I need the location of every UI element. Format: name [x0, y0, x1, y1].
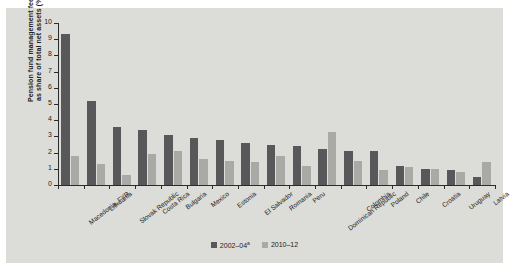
bar[interactable]: [138, 130, 146, 185]
bar[interactable]: [97, 164, 105, 185]
bar[interactable]: [447, 170, 455, 185]
bar[interactable]: [344, 151, 352, 185]
bar[interactable]: [148, 154, 156, 185]
bar-group: [58, 23, 84, 185]
x-axis-tick: [392, 185, 393, 189]
chart-panel: Pension fund management fees as share of…: [6, 8, 503, 263]
x-axis-tick: [187, 185, 188, 189]
bar-group: [109, 23, 135, 185]
bar[interactable]: [328, 132, 336, 185]
x-axis-tick: [418, 185, 419, 189]
x-axis-tick: [289, 185, 290, 189]
bar-group: [315, 23, 341, 185]
legend-footnote-marker: a: [247, 240, 250, 246]
y-axis-title-line-2: as share of total net assets (%): [35, 0, 43, 101]
bar[interactable]: [276, 156, 284, 185]
bar-group: [289, 23, 315, 185]
bar-group: [444, 23, 470, 185]
y-axis-tick-label: 8: [48, 50, 52, 57]
bar-group: [264, 23, 290, 185]
bar[interactable]: [396, 166, 404, 185]
y-axis-tick-label: 1: [48, 164, 52, 171]
bar[interactable]: [405, 167, 413, 185]
legend-swatch-2002-04: [211, 242, 217, 248]
x-axis-tick: [135, 185, 136, 189]
plot-area: 012345678910 Macedonia, FYRLithuaniaSlov…: [58, 23, 495, 185]
y-axis-tick-label: 10: [44, 18, 52, 25]
x-axis-category-label: Chile: [414, 190, 430, 205]
x-axis-category-label: Estonia: [235, 190, 257, 209]
bar-group: [212, 23, 238, 185]
x-axis-tick: [84, 185, 85, 189]
y-axis-tick-label: 5: [48, 99, 52, 106]
x-axis-tick: [315, 185, 316, 189]
legend-item[interactable]: 2002–04a: [211, 240, 250, 249]
legend-item[interactable]: 2010–12: [262, 241, 298, 248]
bar[interactable]: [473, 177, 481, 185]
bar[interactable]: [61, 34, 69, 185]
x-axis-tick: [366, 185, 367, 189]
bar[interactable]: [199, 159, 207, 185]
bar[interactable]: [190, 138, 198, 185]
legend-swatch-2010-12: [262, 242, 268, 248]
bar[interactable]: [174, 151, 182, 185]
bar-group: [187, 23, 213, 185]
bar[interactable]: [251, 162, 259, 185]
x-axis-tick: [161, 185, 162, 189]
x-axis-tick: [444, 185, 445, 189]
bar[interactable]: [354, 161, 362, 185]
bar[interactable]: [216, 140, 224, 185]
bar[interactable]: [267, 145, 275, 186]
x-axis-category-label: Croatia: [441, 190, 462, 209]
x-axis-tick: [58, 185, 59, 189]
bar[interactable]: [431, 169, 439, 185]
bar[interactable]: [122, 175, 130, 185]
bar-group: [392, 23, 418, 185]
y-axis-tick-label: 2: [48, 148, 52, 155]
bar-group: [418, 23, 444, 185]
x-axis-category-label: Latvia: [492, 190, 510, 206]
bar[interactable]: [87, 101, 95, 185]
y-axis-tick-label: 9: [48, 34, 52, 41]
y-axis-tick-label: 3: [48, 131, 52, 138]
x-axis-category-label: Uruguay: [467, 190, 491, 211]
x-axis-tick: [469, 185, 470, 189]
x-axis-category-label: Peru: [311, 190, 326, 204]
bar-group: [135, 23, 161, 185]
bar[interactable]: [241, 143, 249, 185]
bar[interactable]: [482, 162, 490, 185]
x-axis-tick: [495, 185, 496, 189]
bar[interactable]: [113, 127, 121, 185]
bar[interactable]: [302, 166, 310, 185]
x-axis-tick: [212, 185, 213, 189]
chart-legend: 2002–04a2010–12: [6, 240, 503, 249]
x-axis-tick: [238, 185, 239, 189]
bar[interactable]: [164, 135, 172, 185]
bar-group: [161, 23, 187, 185]
x-axis-tick: [109, 185, 110, 189]
bar[interactable]: [71, 156, 79, 185]
legend-label: 2010–12: [271, 241, 298, 248]
x-axis-category-label: Mexico: [209, 190, 230, 208]
bar[interactable]: [379, 170, 387, 185]
bar[interactable]: [456, 172, 464, 185]
legend-label: 2002–04a: [220, 240, 250, 249]
bar[interactable]: [421, 169, 429, 185]
y-axis-tick-label: 0: [48, 180, 52, 187]
y-axis-tick-label: 7: [48, 67, 52, 74]
y-axis-title-line-1: Pension fund management fees: [27, 0, 35, 102]
bar[interactable]: [225, 161, 233, 185]
bar-group: [84, 23, 110, 185]
y-axis-tick-label: 4: [48, 115, 52, 122]
bar[interactable]: [370, 151, 378, 185]
bar-group: [341, 23, 367, 185]
x-axis-line: [58, 185, 495, 186]
y-axis-tick-label: 6: [48, 83, 52, 90]
bar-group: [366, 23, 392, 185]
bar-group: [238, 23, 264, 185]
bar[interactable]: [318, 149, 326, 185]
bar[interactable]: [293, 146, 301, 185]
bar-group: [469, 23, 495, 185]
x-axis-tick: [264, 185, 265, 189]
